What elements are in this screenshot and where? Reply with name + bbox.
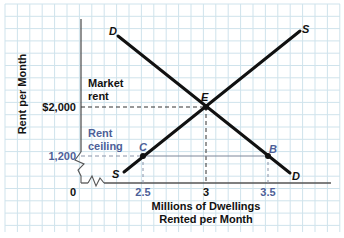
x-tick-0: 0 — [70, 186, 76, 198]
x-axis-title-line2: Rented per Month — [159, 213, 253, 225]
y-axis-title: Rent per Month — [16, 53, 28, 134]
supply-label-top: S — [302, 23, 310, 35]
x-tick-2.5: 2.5 — [135, 186, 150, 198]
rent-ceiling-label-line1: Rent — [88, 127, 113, 139]
demand-label-bottom: D — [292, 170, 300, 182]
demand-label-top: D — [109, 25, 117, 37]
rent-ceiling-label-line2: ceiling — [88, 140, 123, 152]
x-axis-title-line1: Millions of Dwellings — [152, 200, 261, 212]
y-tick-2000: $2,000 — [42, 101, 76, 113]
supply-label-bottom: S — [112, 168, 120, 180]
point-e-label: E — [201, 91, 209, 103]
y-tick-1200: 1,200 — [48, 150, 76, 162]
point-c-marker — [140, 153, 146, 159]
x-tick-3: 3 — [203, 186, 209, 198]
point-c-label: C — [139, 141, 148, 153]
point-b-label: B — [269, 143, 277, 155]
market-rent-label-line1: Market — [88, 77, 124, 89]
rent-ceiling-chart: D S S D E C B Market rent Rent ceiling $… — [0, 0, 344, 238]
market-rent-label-line2: rent — [88, 90, 109, 102]
point-e-marker — [203, 104, 209, 110]
x-tick-3.5: 3.5 — [260, 186, 275, 198]
